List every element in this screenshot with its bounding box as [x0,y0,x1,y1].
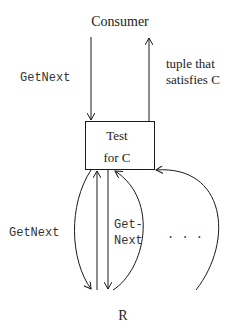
test-box-line1: Test [106,128,128,143]
selection-iterator-diagram: Consumer GetNext tuple that satisfies C … [0,0,233,336]
test-box-line2: for C [103,150,130,165]
getnext-request-label: GetNext [20,71,70,85]
tuple-label-line2: satisfies C [166,72,220,87]
getnext-left-label: GetNext [9,226,59,240]
ellipsis: . . . [167,228,203,242]
tuple-label-line1: tuple that [166,56,215,71]
getnext-mid-line1: Get- [114,218,143,232]
consumer-label: Consumer [91,14,149,29]
getnext-mid-line2: Next [114,234,143,248]
relation-label: R [118,308,128,323]
getnext-left-curve-arrow [74,170,91,289]
